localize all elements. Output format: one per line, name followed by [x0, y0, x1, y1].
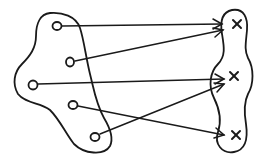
arrow-d1-c1 [62, 19, 222, 29]
set-mapping-diagram [0, 0, 266, 164]
codomain-elements [230, 20, 241, 139]
domain-element-circle [69, 101, 78, 109]
mapping-arrows [38, 19, 224, 138]
codomain-element-cross [232, 131, 240, 139]
domain-elements [29, 22, 100, 141]
domain-element-circle [29, 81, 38, 90]
codomain-element-cross [233, 20, 241, 28]
domain-element-circle [91, 133, 100, 141]
arrow-d4-c3 [78, 106, 224, 138]
arrow-d5-c2 [100, 83, 224, 134]
arrow-d3-c2 [38, 74, 224, 84]
codomain-element-cross [230, 72, 238, 80]
domain-element-circle [66, 58, 74, 67]
domain-element-circle [53, 22, 62, 30]
arrow-d2-c1 [75, 28, 223, 61]
